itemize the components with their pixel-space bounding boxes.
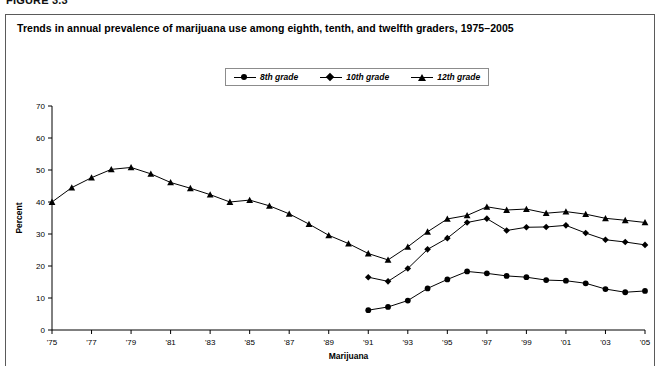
diamond-marker-point	[484, 215, 491, 222]
y-axis-tick-label: 0	[41, 326, 46, 335]
circle-marker-point	[504, 273, 510, 279]
x-axis-tick-label: '95	[442, 338, 453, 347]
triangle-marker-point	[286, 210, 293, 216]
y-axis-tick-label: 20	[36, 262, 45, 271]
diamond-marker-point	[523, 224, 530, 231]
x-axis-tick-label: '89	[324, 338, 335, 347]
circle-marker-point	[444, 277, 450, 283]
x-axis-tick-label: '03	[600, 338, 611, 347]
y-axis-tick-label: 30	[36, 230, 45, 239]
circle-marker-point	[425, 286, 431, 292]
circle-marker-point	[524, 274, 530, 280]
triangle-marker-point	[483, 203, 490, 209]
diamond-marker-point	[543, 224, 550, 231]
triangle-marker-point	[88, 174, 95, 180]
x-axis-tick-label: '01	[561, 338, 572, 347]
circle-marker-point	[642, 288, 648, 294]
circle-marker-point	[365, 307, 371, 313]
circle-marker-point	[603, 286, 609, 292]
circle-marker-point	[484, 270, 490, 276]
x-axis-tick-label: '97	[482, 338, 493, 347]
triangle-marker-point	[306, 221, 313, 227]
circle-marker-point	[622, 289, 628, 295]
diamond-marker-point	[582, 230, 589, 237]
triangle-marker-point	[325, 232, 332, 238]
circle-marker-point	[385, 304, 391, 310]
y-axis-tick-label: 60	[36, 134, 45, 143]
y-axis-title: Percent	[14, 202, 24, 233]
x-axis-title: Marijuana	[329, 351, 369, 361]
diamond-marker-point	[385, 278, 392, 285]
x-axis-tick-label: '79	[126, 338, 137, 347]
x-axis-tick-label: '81	[165, 338, 176, 347]
circle-marker-point	[543, 277, 549, 283]
x-axis-tick-label: '93	[403, 338, 414, 347]
diamond-marker-point	[563, 222, 570, 229]
triangle-marker-point	[404, 243, 411, 249]
triangle-marker-point	[167, 179, 174, 185]
triangle-marker-point	[68, 184, 75, 190]
x-axis-tick-label: '99	[521, 338, 532, 347]
diamond-marker-point	[602, 236, 609, 243]
circle-marker-point	[464, 269, 470, 275]
x-axis-tick-label: '77	[86, 338, 97, 347]
y-axis-tick-label: 10	[36, 294, 45, 303]
circle-marker-point	[563, 278, 569, 284]
x-axis-tick-label: '83	[205, 338, 216, 347]
x-axis-tick-label: '75	[47, 338, 58, 347]
y-axis-tick-label: 40	[36, 198, 45, 207]
triangle-marker-point	[464, 212, 471, 218]
x-axis-tick-label: '05	[640, 338, 651, 347]
diamond-marker-point	[642, 242, 649, 249]
x-axis-tick-label: '85	[244, 338, 255, 347]
x-axis-tick-label: '87	[284, 338, 295, 347]
y-axis-tick-label: 50	[36, 166, 45, 175]
triangle-marker-point	[365, 250, 372, 256]
circle-marker-point	[405, 298, 411, 304]
circle-marker-point	[583, 280, 589, 286]
y-axis-tick-label: 70	[36, 102, 45, 111]
triangle-marker-point	[424, 228, 431, 234]
x-axis-tick-label: '91	[363, 338, 374, 347]
diamond-marker-point	[365, 274, 372, 281]
triangle-marker-point	[345, 240, 352, 246]
diamond-marker-point	[503, 227, 510, 234]
diamond-marker-point	[622, 239, 629, 246]
